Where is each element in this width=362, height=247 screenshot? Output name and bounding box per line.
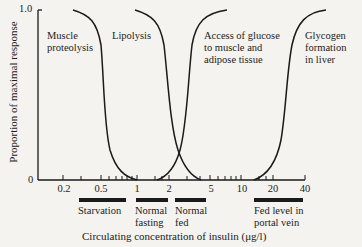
y-tick-label-zero: 0: [28, 174, 33, 186]
curve-label-glycogen-formation: Glycogen formation in liver: [305, 30, 346, 66]
range-bar-normal-fed: [175, 198, 206, 202]
y-tick-label-top: 1.0: [19, 3, 32, 15]
curve-label-lipolysis: Lipolysis: [112, 30, 151, 42]
x-ticks: [63, 175, 305, 180]
curve-label-glucose-access: Access of glucose to muscle and adipose …: [204, 30, 280, 66]
x-tick-label: 0.2: [57, 183, 70, 195]
x-tick-label: 1: [134, 183, 139, 195]
x-tick-label: 2: [166, 183, 171, 195]
range-label-normal-fed: Normal fed: [175, 205, 207, 229]
range-bar-starvation: [79, 198, 126, 202]
x-tick-label: 0.5: [94, 183, 107, 195]
range-label-fed-portal: Fed level in portal vein: [254, 205, 304, 229]
range-bar-fed-portal: [254, 198, 303, 202]
y-axis-label: Proportion of maximal response: [7, 21, 19, 162]
curve-label-muscle-proteolysis: Muscle proteolysis: [47, 30, 93, 54]
x-axis-label: Circulating concentration of insulin (μg…: [82, 230, 266, 242]
x-tick-label: 10: [237, 183, 248, 195]
range-label-starvation: Starvation: [78, 205, 121, 217]
x-tick-label: 5: [208, 183, 213, 195]
range-bar-normal-fasting: [136, 198, 168, 202]
range-label-normal-fasting: Normal fasting: [135, 205, 167, 229]
x-tick-label: 20: [268, 183, 279, 195]
x-tick-label: 40: [300, 183, 311, 195]
